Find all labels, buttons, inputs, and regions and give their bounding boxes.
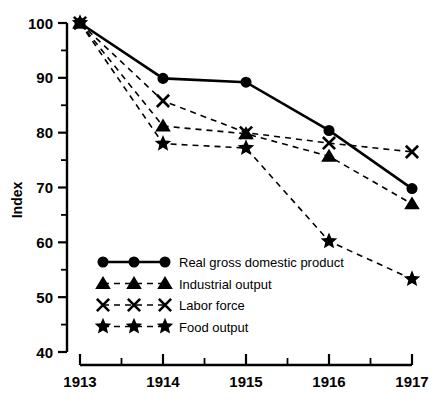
legend-item: Labor force (97, 298, 245, 313)
data-point (157, 73, 168, 84)
data-series-group (72, 14, 421, 286)
legend-item: Food output (95, 318, 249, 335)
y-tick-label: 40 (36, 344, 53, 361)
y-axis-title: Index (9, 182, 25, 219)
data-point (404, 196, 420, 209)
legend-marker (159, 256, 170, 267)
legend-label: Real gross domestic product (179, 255, 344, 270)
legend-marker (157, 318, 174, 334)
data-point (74, 17, 85, 28)
x-tick-label: 1914 (146, 373, 180, 390)
data-series (74, 17, 417, 194)
data-point (323, 125, 334, 136)
legend-marker (95, 318, 112, 334)
data-series (72, 16, 420, 210)
y-tick-label: 60 (36, 234, 53, 251)
data-point (321, 149, 337, 162)
y-tick-label: 90 (36, 69, 53, 86)
line-chart: 405060708090100 19131914191519161917 Rea… (0, 0, 434, 411)
x-tick-label: 1917 (395, 373, 428, 390)
data-point (406, 183, 417, 194)
y-tick-label: 50 (36, 289, 53, 306)
legend-label: Industrial output (179, 277, 272, 292)
legend-marker (157, 276, 173, 289)
data-point (155, 135, 172, 151)
y-tick-label: 80 (36, 124, 53, 141)
data-point (404, 270, 421, 286)
data-point (240, 77, 251, 88)
legend-label: Labor force (179, 298, 245, 313)
data-series (72, 14, 421, 286)
chart-container: 405060708090100 19131914191519161917 Rea… (0, 0, 434, 411)
x-tick-label: 1913 (63, 373, 96, 390)
legend-marker (95, 276, 111, 289)
data-point (238, 139, 255, 155)
data-point (157, 95, 169, 107)
legend-marker (126, 276, 142, 289)
x-tick-label: 1915 (229, 373, 262, 390)
legend-item: Industrial output (95, 276, 272, 292)
y-tick-label: 100 (28, 15, 53, 32)
legend-marker (126, 318, 143, 334)
legend-label: Food output (179, 320, 249, 335)
x-axis: 19131914191519161917 (63, 354, 428, 390)
legend-marker (97, 256, 108, 267)
y-axis: 405060708090100 (28, 15, 67, 361)
y-tick-label: 70 (36, 179, 53, 196)
legend-item: Real gross domestic product (97, 255, 344, 270)
legend-marker (128, 256, 139, 267)
chart-legend: Real gross domestic productIndustrial ou… (95, 255, 344, 335)
x-tick-label: 1916 (312, 373, 345, 390)
